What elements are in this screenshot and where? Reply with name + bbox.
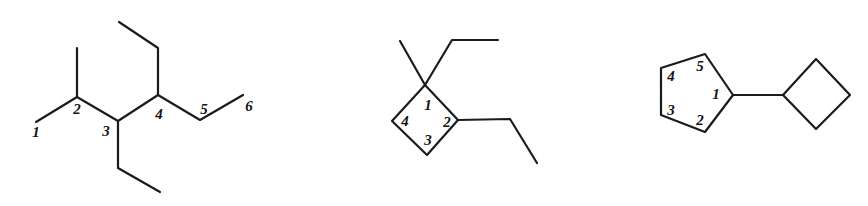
structure-2-ethyl-on-c2	[458, 119, 537, 163]
structure-1-locant-6: 6	[245, 98, 253, 114]
structure-1-main-chain	[36, 95, 243, 122]
structure-3-locant-2: 2	[695, 112, 704, 128]
structure-3-locant-5: 5	[696, 58, 704, 74]
structure-1-ethyl-on-c3	[118, 121, 160, 192]
structure-2-locant-3: 3	[423, 132, 432, 148]
structure-3-locant-1: 1	[712, 86, 720, 102]
skeletal-structures-canvas: 1 2 3 4 5 6 1 2 3 4 1 2 3 4 5	[0, 0, 868, 206]
structure-1-locant-4: 4	[154, 106, 163, 122]
structure-2-group: 1 2 3 4	[392, 40, 537, 163]
structure-3-locant-3: 3	[666, 102, 675, 118]
structure-2-locant-4: 4	[400, 113, 409, 129]
structure-1-group: 1 2 3 4 5 6	[32, 22, 253, 192]
structure-1-locant-3: 3	[101, 123, 110, 139]
structure-2-locant-2: 2	[442, 114, 451, 130]
structure-3-cyclobutane-ring	[783, 59, 850, 129]
structure-1-locant-5: 5	[200, 101, 208, 117]
structure-1-locant-1: 1	[32, 124, 40, 140]
structure-1-locant-2: 2	[72, 101, 81, 117]
chemistry-figure: 1 2 3 4 5 6 1 2 3 4 1 2 3 4 5	[0, 0, 868, 206]
structure-1-ethyl-on-c4	[119, 22, 158, 95]
structure-2-locant-1: 1	[424, 97, 432, 113]
structure-2-methyl-on-c1	[400, 41, 425, 85]
structure-3-group: 1 2 3 4 5	[661, 54, 850, 132]
structure-3-locant-4: 4	[666, 68, 675, 84]
structure-2-ethyl-on-c1	[425, 40, 498, 85]
